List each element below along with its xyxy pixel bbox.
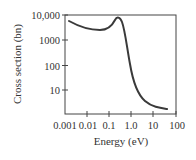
x-tick-label: 1.0 <box>124 120 137 131</box>
x-tick-label: 0.01 <box>79 120 97 131</box>
x-tick-label: 0.001 <box>53 120 77 131</box>
x-tick-label: 10 <box>148 120 159 131</box>
cross-section-curve <box>69 18 167 109</box>
y-tick-label: 10,000 <box>31 10 60 21</box>
y-axis-label: Cross section (bn) <box>11 24 24 104</box>
plot-frame <box>65 15 176 114</box>
x-tick-label: 0.1 <box>102 120 115 131</box>
y-tick-label: 10 <box>50 85 61 96</box>
chart: 10,000 1000 100 10 0.001 0.01 0.1 1.0 10… <box>0 0 196 160</box>
x-axis-label: Energy (eV) <box>94 135 149 148</box>
x-tick-label: 100 <box>169 120 185 131</box>
y-tick-label: 100 <box>44 61 60 72</box>
x-tick-labels: 0.001 0.01 0.1 1.0 10 100 <box>53 120 185 131</box>
y-tick-labels: 10,000 1000 100 10 <box>31 10 60 96</box>
y-tick-label: 1000 <box>39 35 60 46</box>
